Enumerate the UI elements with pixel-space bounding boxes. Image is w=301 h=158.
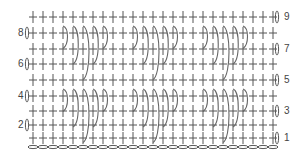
- single-crochet-icon: [79, 119, 87, 131]
- single-crochet-icon: [189, 11, 197, 23]
- post-stitch-arc-icon: [83, 26, 89, 80]
- chain-stitch-icon: [168, 145, 178, 148]
- post-stitch-arc-icon: [173, 26, 178, 49]
- row-label-3: 3: [284, 106, 290, 116]
- chain-stitch-icon: [108, 145, 118, 148]
- single-crochet-icon: [189, 74, 197, 86]
- single-crochet-icon: [99, 11, 107, 23]
- turning-chain-icon: [25, 119, 28, 131]
- row-label-9: 9: [284, 12, 290, 22]
- post-stitch-arc-icon: [233, 89, 238, 127]
- single-crochet-icon: [29, 74, 37, 86]
- single-crochet-icon: [129, 74, 137, 86]
- single-crochet-icon: [169, 132, 177, 144]
- single-crochet-icon: [89, 105, 97, 117]
- single-crochet-icon: [89, 11, 97, 23]
- single-crochet-icon: [59, 132, 67, 144]
- chain-stitch-icon: [248, 145, 258, 148]
- single-crochet-icon: [119, 58, 127, 70]
- single-crochet-icon: [159, 132, 167, 144]
- single-crochet-icon: [129, 132, 137, 144]
- single-crochet-icon: [29, 132, 37, 144]
- single-crochet-icon: [239, 132, 247, 144]
- single-crochet-icon: [119, 74, 127, 86]
- chain-stitch-icon: [128, 145, 138, 148]
- chain-stitch-icon: [48, 145, 58, 148]
- post-stitch-arc-icon: [83, 89, 89, 143]
- single-crochet-icon: [249, 27, 257, 39]
- single-crochet-icon: [69, 105, 77, 117]
- single-crochet-icon: [119, 132, 127, 144]
- single-crochet-icon: [119, 90, 127, 102]
- chain-stitch-icon: [68, 145, 78, 148]
- single-crochet-icon: [229, 119, 237, 131]
- single-crochet-icon: [179, 90, 187, 102]
- single-crochet-icon: [219, 58, 227, 70]
- single-crochet-icon: [249, 105, 257, 117]
- single-crochet-icon: [249, 132, 257, 144]
- single-crochet-icon: [259, 119, 267, 131]
- turning-chain-icon: [25, 90, 28, 102]
- single-crochet-icon: [269, 119, 277, 131]
- single-crochet-icon: [59, 119, 67, 131]
- single-crochet-icon: [39, 11, 47, 23]
- post-stitch-arc-icon: [223, 89, 229, 143]
- single-crochet-icon: [89, 119, 97, 131]
- single-crochet-icon: [239, 119, 247, 131]
- single-crochet-icon: [239, 11, 247, 23]
- single-crochet-icon: [189, 27, 197, 39]
- post-stitch-arc-icon: [163, 89, 168, 127]
- single-crochet-icon: [79, 105, 87, 117]
- single-crochet-icon: [129, 11, 137, 23]
- post-stitch-arc-icon: [133, 26, 138, 49]
- single-crochet-icon: [179, 27, 187, 39]
- single-crochet-icon: [189, 90, 197, 102]
- chain-stitch-icon: [148, 145, 158, 148]
- single-crochet-icon: [49, 74, 57, 86]
- single-crochet-icon: [229, 105, 237, 117]
- single-crochet-icon: [249, 74, 257, 86]
- chain-stitch-icon: [238, 145, 248, 148]
- single-crochet-icon: [209, 43, 217, 55]
- post-stitch-arc-icon: [133, 89, 138, 112]
- single-crochet-grid: [29, 11, 277, 144]
- chain-stitch-icon: [28, 145, 38, 148]
- post-stitch-arc-icon: [63, 89, 68, 112]
- chain-stitch-icon: [158, 145, 168, 148]
- row-label-2: 2: [18, 120, 24, 130]
- single-crochet-icon: [139, 43, 147, 55]
- single-crochet-icon: [139, 119, 147, 131]
- single-crochet-icon: [69, 11, 77, 23]
- single-crochet-icon: [49, 11, 57, 23]
- single-crochet-icon: [199, 119, 207, 131]
- single-crochet-icon: [229, 11, 237, 23]
- single-crochet-icon: [159, 105, 167, 117]
- row-label-8: 8: [18, 28, 24, 38]
- single-crochet-icon: [219, 105, 227, 117]
- single-crochet-icon: [209, 105, 217, 117]
- single-crochet-icon: [169, 11, 177, 23]
- single-crochet-icon: [69, 119, 77, 131]
- single-crochet-icon: [99, 119, 107, 131]
- row-label-1: 1: [284, 133, 290, 143]
- post-stitch-arc-icon: [163, 26, 168, 64]
- single-crochet-icon: [179, 58, 187, 70]
- single-crochet-icon: [49, 90, 57, 102]
- single-crochet-icon: [29, 119, 37, 131]
- post-stitch-arc-icon: [173, 89, 178, 112]
- single-crochet-icon: [249, 90, 257, 102]
- row-label-5: 5: [284, 75, 290, 85]
- single-crochet-icon: [179, 11, 187, 23]
- single-crochet-icon: [119, 105, 127, 117]
- chain-stitch-icon: [38, 145, 48, 148]
- single-crochet-icon: [59, 74, 67, 86]
- single-crochet-icon: [39, 43, 47, 55]
- single-crochet-icon: [259, 132, 267, 144]
- single-crochet-icon: [119, 43, 127, 55]
- single-crochet-icon: [149, 11, 157, 23]
- chain-stitch-icon: [208, 145, 218, 148]
- single-crochet-icon: [249, 119, 257, 131]
- single-crochet-icon: [109, 105, 117, 117]
- single-crochet-icon: [239, 58, 247, 70]
- single-crochet-icon: [99, 58, 107, 70]
